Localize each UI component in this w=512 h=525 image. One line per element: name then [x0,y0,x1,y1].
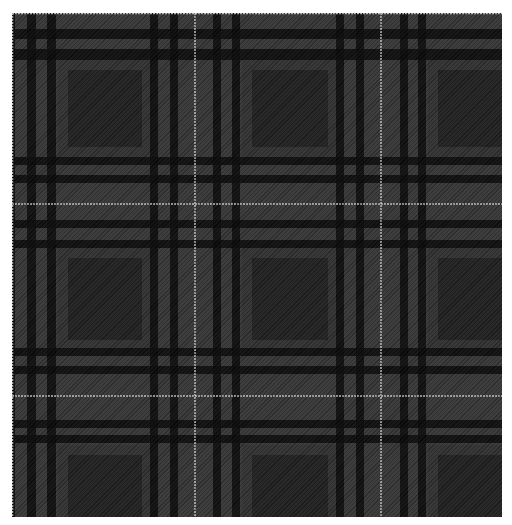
dark-square [438,258,502,340]
dark-square [252,70,328,147]
vertical-stripe [400,13,408,517]
horizontal-stripe [12,420,502,428]
horizontal-stripe [12,240,502,248]
dark-square [438,70,502,147]
tartan-pattern [12,13,502,517]
horizontal-stripe [12,157,502,165]
vertical-stripe [336,13,344,517]
vertical-stripe [170,13,178,517]
dark-square [438,455,502,517]
vertical-stripe [356,13,364,517]
horizontal-stripe [12,435,502,443]
vertical-stripe [232,13,240,517]
horizontal-stripe [12,49,502,60]
vertical-stripe [150,13,158,517]
vertical-stripe [418,13,426,517]
dark-square [68,70,142,147]
horizontal-stripe [12,348,502,356]
vertical-stripe [27,13,36,517]
horizontal-stripe [12,175,502,183]
vertical-stripe [213,13,221,517]
dark-square [68,258,142,340]
dark-square [252,455,328,517]
tartan-swatch [12,13,502,517]
dark-square [252,258,328,340]
dark-square [68,455,142,517]
horizontal-stripe [12,220,502,228]
vertical-stripe [47,13,56,517]
horizontal-stripe [12,29,502,39]
horizontal-stripe [12,366,502,374]
